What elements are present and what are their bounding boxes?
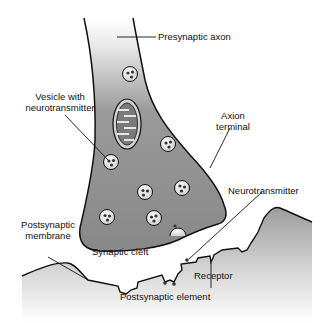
label-vesicle-line2: neurotransmitter xyxy=(20,102,100,113)
label-axon-terminal-line2: terminal xyxy=(208,121,258,132)
label-neurotransmitter: Neurotransmitter xyxy=(228,185,299,196)
label-presynaptic-axon: Presynaptic axon xyxy=(158,31,231,42)
label-axon-terminal: Axion terminal xyxy=(208,110,258,132)
receptor-dot xyxy=(163,281,167,285)
label-synaptic-cleft: Synaptic cleft xyxy=(92,246,149,257)
label-postsynaptic-element: Postsynaptic element xyxy=(120,291,210,302)
synapse-diagram xyxy=(0,0,331,323)
label-axon-terminal-line1: Axion xyxy=(208,110,258,121)
label-vesicle: Vesicle with neurotransmitter xyxy=(20,91,100,113)
label-postsynaptic-membrane-line2: membrane xyxy=(14,230,82,241)
label-postsynaptic-membrane-line1: Postsynaptic xyxy=(14,219,82,230)
label-postsynaptic-membrane: Postsynaptic membrane xyxy=(14,219,82,241)
label-vesicle-line1: Vesicle with xyxy=(20,91,100,102)
neurotransmitter-molecule xyxy=(185,258,189,262)
mitochondrion xyxy=(113,99,141,149)
label-receptor: Receptor xyxy=(194,270,233,281)
receptor-dot xyxy=(172,282,176,286)
